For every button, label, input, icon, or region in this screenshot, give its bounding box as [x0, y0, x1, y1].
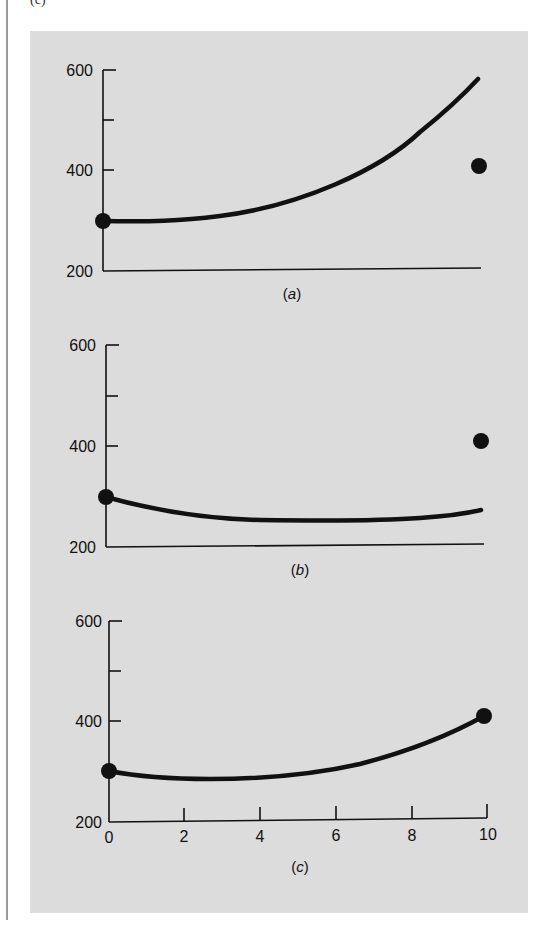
x-tick-label-2: 2 — [180, 828, 189, 845]
x-axis — [109, 818, 487, 822]
y-tick-label-600: 600 — [66, 62, 93, 79]
y-tick-label-400: 400 — [69, 438, 96, 455]
chart-panel-b: 600 400 200 (b) — [69, 337, 489, 578]
solution-curve — [109, 716, 484, 779]
chart-panel-a: 600 400 200 (a) — [66, 62, 487, 302]
x-axis — [103, 268, 481, 271]
x-tick-label-0: 0 — [105, 829, 114, 846]
y-tick-label-600: 600 — [75, 613, 102, 630]
initial-point — [95, 213, 111, 229]
panel-label-b: (b) — [291, 561, 309, 578]
initial-point — [98, 489, 114, 505]
panel-label-c: (c) — [291, 858, 309, 875]
panel-label-a: (a) — [283, 285, 301, 302]
solution-curve — [103, 79, 478, 221]
x-tick-label-8: 8 — [408, 827, 417, 844]
y-tick-label-400: 400 — [66, 162, 93, 179]
boundary-point — [471, 158, 487, 174]
x-tick-label-6: 6 — [332, 827, 341, 844]
boundary-point — [473, 433, 489, 449]
x-axis — [106, 544, 484, 547]
y-tick-label-400: 400 — [75, 713, 102, 730]
y-tick-label-200: 200 — [75, 814, 102, 831]
y-tick-label-200: 200 — [66, 263, 93, 280]
y-tick-label-600: 600 — [69, 337, 96, 354]
x-tick-label-10: 10 — [479, 826, 497, 843]
y-tick-label-200: 200 — [69, 539, 96, 556]
solution-curve — [106, 497, 481, 521]
x-tick-label-4: 4 — [256, 828, 265, 845]
figure-svg: 600 400 200 (a) 600 400 200 (b) — [0, 0, 541, 929]
chart-panel-c: 600 400 200 0 2 4 6 8 10 (c) — [75, 613, 497, 875]
boundary-point — [476, 708, 492, 724]
initial-point — [101, 763, 117, 779]
